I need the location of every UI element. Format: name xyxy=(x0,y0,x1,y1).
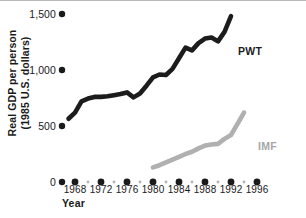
ytick-dot-500 xyxy=(59,123,65,129)
xtick-minor-dot-1982 xyxy=(165,181,168,184)
xtick-minor-dot-1986 xyxy=(191,181,194,184)
xtick-minor-dot-1974 xyxy=(113,181,116,184)
xtick-label-1996: 1996 xyxy=(240,184,274,195)
ytick-dot-1500 xyxy=(59,11,65,17)
series-label-pwt: PWT xyxy=(238,45,262,57)
ytick-label-500: 500 xyxy=(10,120,56,132)
series-label-imf: IMF xyxy=(258,140,277,152)
series-line-imf xyxy=(153,113,244,168)
ytick-dot-1000 xyxy=(59,67,65,73)
xtick-minor-dot-1990 xyxy=(217,181,220,184)
xtick-minor-dot-1970 xyxy=(87,181,90,184)
series-line-pwt xyxy=(69,16,232,119)
ytick-label-0: 0 xyxy=(10,176,56,188)
xtick-minor-dot-1994 xyxy=(243,181,246,184)
xtick-minor-dot-1978 xyxy=(139,181,142,184)
ytick-label-1500: 1,500 xyxy=(10,8,56,20)
chart-figure: 1,500 1,000 500 0 1968 1972 1976 1980 19… xyxy=(0,0,306,218)
x-axis-title: Year xyxy=(62,197,85,209)
ytick-label-1000: 1,000 xyxy=(10,64,56,76)
